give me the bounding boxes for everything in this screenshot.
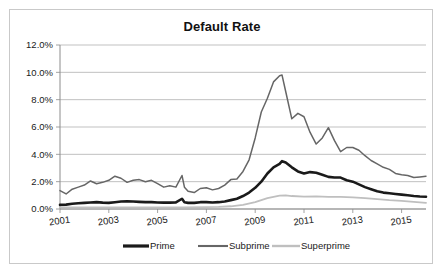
legend-label-prime: Prime xyxy=(150,240,175,251)
x-axis-tick-label: 2015 xyxy=(390,214,412,228)
chart-plot: 0.0%2.0%4.0%6.0%8.0%10.0%12.0%2001200320… xyxy=(10,10,434,265)
y-axis-tick-label: 0.0% xyxy=(31,203,53,214)
x-axis-tick-label: 2001 xyxy=(48,214,70,228)
x-axis-tick-label: 2007 xyxy=(195,214,217,228)
series-line-subprime xyxy=(60,75,426,194)
y-axis-tick-label: 8.0% xyxy=(31,94,53,105)
x-axis-tick-label: 2009 xyxy=(243,214,265,228)
x-axis-tick-label: 2003 xyxy=(97,214,119,228)
x-axis-tick-label: 2011 xyxy=(293,214,315,228)
x-axis-tick-label: 2005 xyxy=(146,214,168,228)
y-axis-tick-label: 12.0% xyxy=(26,39,53,50)
y-axis-tick-label: 2.0% xyxy=(31,176,53,187)
y-axis-tick-label: 10.0% xyxy=(26,67,53,78)
legend-label-superprime: Superprime xyxy=(301,240,350,251)
chart-container: Default Rate 0.0%2.0%4.0%6.0%8.0%10.0%12… xyxy=(9,9,433,264)
y-axis-tick-label: 6.0% xyxy=(31,121,53,132)
y-axis-tick-label: 4.0% xyxy=(31,149,53,160)
x-axis-tick-label: 2013 xyxy=(341,214,363,228)
legend-label-subprime: Subprime xyxy=(229,240,270,251)
